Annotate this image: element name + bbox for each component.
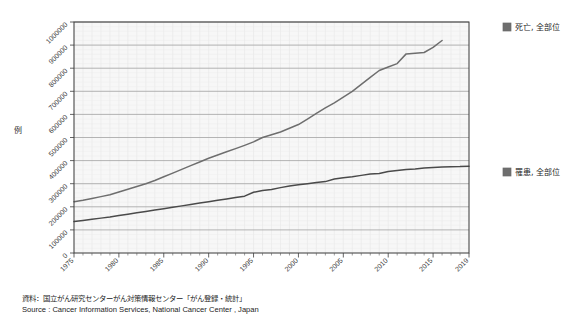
y-tick-label: 400000 bbox=[47, 159, 69, 181]
y-tick-label: 700000 bbox=[47, 90, 69, 112]
x-axis-ticks bbox=[74, 253, 469, 258]
cancer-statistics-chart: 1975198019851990199520002005201020152019… bbox=[0, 0, 580, 323]
caption-line-japanese: 資料：国立がん研究センターがん対策情報センター「がん登録・統計」 bbox=[22, 294, 246, 303]
x-tick-label: 2000 bbox=[283, 257, 299, 273]
legend-label-deaths: 死亡, 全部位 bbox=[515, 22, 560, 32]
x-tick-label: 2015 bbox=[418, 257, 434, 273]
y-axis-tick-labels: 0100000200000300000400000500000600000700… bbox=[44, 21, 68, 260]
x-tick-label: 2005 bbox=[328, 257, 344, 273]
chart-canvas: 1975198019851990199520002005201020152019… bbox=[0, 0, 580, 323]
legend-swatch-deaths bbox=[503, 23, 511, 31]
y-tick-label: 500000 bbox=[47, 136, 69, 158]
x-tick-label: 1980 bbox=[104, 257, 120, 273]
source-caption: 資料：国立がん研究センターがん対策情報センター「がん登録・統計」 Source … bbox=[22, 294, 259, 314]
x-tick-label: 1995 bbox=[238, 257, 254, 273]
x-tick-label: 1985 bbox=[149, 257, 165, 273]
x-axis-tick-labels: 1975198019851990199520002005201020152019 bbox=[59, 257, 470, 273]
y-tick-label: 200000 bbox=[47, 205, 69, 227]
y-tick-label: 600000 bbox=[47, 113, 69, 135]
x-tick-label: 1975 bbox=[59, 257, 75, 273]
y-tick-label: 900000 bbox=[47, 44, 69, 66]
x-tick-label: 2019 bbox=[454, 257, 470, 273]
y-tick-label: 1000000 bbox=[44, 21, 68, 45]
y-tick-label: 100000 bbox=[47, 229, 69, 251]
x-tick-label: 1990 bbox=[193, 257, 209, 273]
legend-swatch-incidence bbox=[503, 168, 511, 176]
x-tick-label: 2010 bbox=[373, 257, 389, 273]
caption-line-english: Source : Cancer Information Services, Na… bbox=[22, 305, 259, 314]
y-axis-ticks bbox=[70, 22, 74, 253]
y-axis-title: 例 bbox=[14, 125, 22, 135]
y-tick-label: 300000 bbox=[47, 182, 69, 204]
chart-legend: 死亡, 全部位 罹患, 全部位 bbox=[503, 22, 560, 177]
y-tick-label: 800000 bbox=[47, 67, 69, 89]
legend-label-incidence: 罹患, 全部位 bbox=[515, 167, 560, 177]
